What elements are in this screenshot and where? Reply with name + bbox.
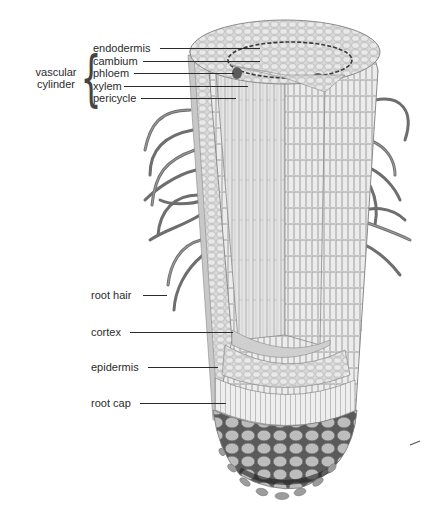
label-xylem: xylem bbox=[93, 80, 122, 92]
leader-epidermis bbox=[148, 367, 218, 368]
vascular-cylinder-label-line2: cylinder bbox=[26, 78, 86, 90]
label-endodermis: endodermis bbox=[93, 42, 150, 54]
leader-pericycle bbox=[141, 98, 236, 99]
label-root-hair: root hair bbox=[91, 289, 131, 301]
leader-phloem bbox=[134, 73, 234, 74]
label-root-cap: root cap bbox=[91, 397, 131, 409]
label-cortex: cortex bbox=[91, 326, 121, 338]
leader-root-hair bbox=[143, 295, 167, 296]
leader-cambium bbox=[143, 61, 260, 62]
leader-root-cap bbox=[140, 403, 226, 404]
leader-cortex bbox=[130, 332, 233, 333]
leader-xylem bbox=[124, 86, 248, 87]
top-cross-section bbox=[190, 20, 380, 84]
label-cambium: cambium bbox=[93, 55, 138, 67]
label-pericycle: pericycle bbox=[93, 92, 136, 104]
leader-endodermis bbox=[160, 48, 260, 49]
vascular-cylinder-label: vascular cylinder bbox=[26, 66, 86, 90]
label-phloem: phloem bbox=[93, 67, 129, 79]
label-epidermis: epidermis bbox=[91, 361, 139, 373]
vascular-cylinder-label-line1: vascular bbox=[26, 66, 86, 78]
